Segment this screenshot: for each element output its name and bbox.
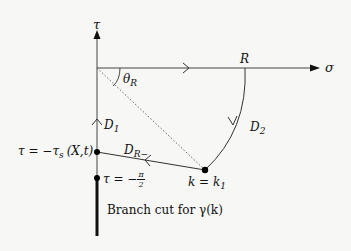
D2-subscript: 2 — [260, 126, 266, 136]
tau-s-point — [94, 149, 100, 155]
tau-s-equation: τ = −τ — [18, 144, 59, 158]
tau-pi-equation: τ = − — [103, 172, 137, 186]
DR-subscript: R− — [134, 149, 148, 159]
tau-pi-half-point — [94, 175, 100, 181]
tau-s-subscript: s — [59, 150, 64, 160]
D2-label: D2 — [250, 121, 265, 136]
D1-label: D1 — [104, 119, 119, 134]
sigma-axis-arrowhead-icon — [310, 65, 320, 72]
tau-axis-label: τ — [93, 18, 100, 31]
D1-symbol: D — [104, 118, 114, 132]
k-subscript: 1 — [220, 181, 226, 191]
fraction-denominator: 2 — [137, 180, 144, 189]
k-equation: k = k — [188, 175, 220, 189]
tau-pi-half-label: τ = −π2 — [103, 170, 145, 189]
sigma-axis-label: σ — [325, 61, 334, 74]
DR-minus-label: DR− — [124, 144, 148, 159]
fraction-numerator: π — [137, 170, 144, 180]
DR-symbol: D — [124, 143, 134, 157]
k1-label: k = k1 — [188, 176, 226, 191]
R-label: R — [240, 53, 249, 65]
contour-diagram: τ σ θR R D1 D2 DR− τ = −τs(X,t) τ = −π2 … — [0, 0, 351, 251]
pi-over-2-fraction: π2 — [137, 170, 144, 189]
tau-s-arguments: (X,t) — [67, 144, 94, 158]
D2-direction-arrow-icon — [228, 116, 237, 125]
D2-symbol: D — [250, 120, 260, 134]
theta-angle-arc — [113, 68, 120, 86]
branch-cut-label: Branch cut for γ(k) — [107, 204, 223, 216]
theta-subscript: R — [130, 78, 137, 88]
D1-subscript: 1 — [114, 124, 120, 134]
tau-s-label: τ = −τs(X,t) — [18, 145, 93, 160]
k1-point — [202, 167, 208, 173]
contour-D2 — [205, 68, 245, 170]
theta-R-label: θR — [123, 73, 137, 88]
